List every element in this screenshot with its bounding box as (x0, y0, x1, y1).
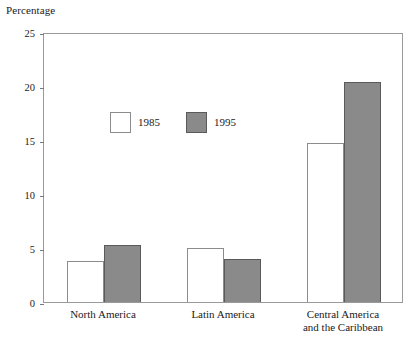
bar-group (164, 32, 284, 302)
y-axis-tick-label: 5 (0, 245, 35, 256)
plot-area: 0510152025 (43, 33, 403, 303)
legend-item-1995: 1995 (186, 112, 236, 133)
bar-1985-2 (187, 248, 224, 302)
chart-legend: 19851995 (110, 112, 236, 133)
x-axis-category-label: North America (43, 308, 163, 321)
y-axis-tick-label: 20 (0, 83, 35, 94)
y-axis-tick-label: 10 (0, 191, 35, 202)
legend-swatch-1985 (110, 112, 131, 133)
y-axis-tick-label: 25 (0, 29, 35, 40)
bar-1995-2 (224, 259, 261, 302)
y-axis-tick-label: 15 (0, 137, 35, 148)
legend-swatch-1995 (186, 112, 207, 133)
legend-label-1985: 1985 (138, 117, 160, 128)
bar-group (44, 32, 164, 302)
x-axis-category-label: Central America and the Caribbean (283, 308, 403, 334)
legend-item-1985: 1985 (110, 112, 160, 133)
bar-1995-1 (104, 245, 141, 302)
bar-1985-3 (307, 143, 344, 302)
x-axis-category-label: Latin America (163, 308, 283, 321)
bar-chart: Percentage 0510152025 19851995 North Ame… (0, 0, 415, 339)
y-axis-title: Percentage (6, 4, 55, 16)
y-axis-tick-label: 0 (0, 299, 35, 310)
bar-1995-3 (344, 82, 381, 302)
legend-label-1995: 1995 (214, 117, 236, 128)
y-axis-tick-mark (40, 304, 44, 305)
bar-1985-1 (67, 261, 104, 302)
bar-group (284, 32, 404, 302)
